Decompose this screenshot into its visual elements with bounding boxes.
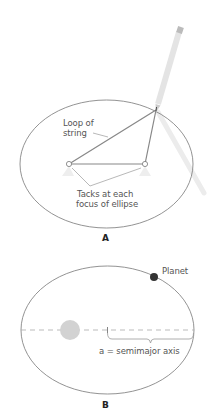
- panel-b-figure: [21, 266, 194, 394]
- string-label-line1: Loop of: [63, 118, 94, 128]
- tack-leader-left: [72, 168, 90, 186]
- string-leader-line: [93, 133, 108, 137]
- tacks-label-line2: focus of ellipse: [76, 199, 138, 209]
- tack-right-icon: [142, 161, 147, 166]
- pencil-eraser-icon: [179, 27, 181, 33]
- tack-leader-right: [90, 168, 141, 186]
- panel-a-label: A: [102, 233, 109, 243]
- planet-label: Planet: [162, 266, 188, 276]
- string-label-line2: string: [63, 128, 87, 138]
- planet-icon: [150, 273, 158, 281]
- semimajor-axis-label: a = semimajor axis: [99, 346, 180, 356]
- sun-icon: [60, 320, 80, 340]
- semimajor-bracket: [108, 333, 194, 343]
- tack-shadow-right: [139, 166, 151, 176]
- pencil-shadow: [158, 112, 204, 193]
- panel-b-label: B: [102, 400, 109, 410]
- pencil-lead: [156, 107, 157, 111]
- tack-shadow-left: [62, 166, 74, 176]
- tacks-label-line1: Tacks at each: [77, 189, 133, 199]
- tack-left-icon: [66, 161, 71, 166]
- pencil-body-icon: [158, 32, 179, 104]
